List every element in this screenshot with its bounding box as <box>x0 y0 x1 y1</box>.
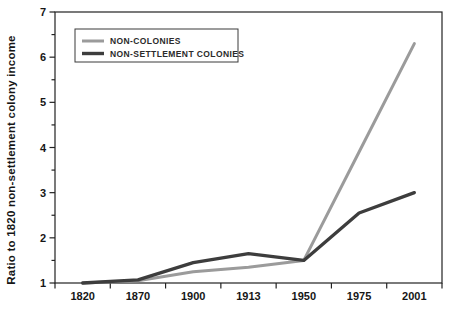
y-axis-title: Ratio to 1820 non-settlement colony inco… <box>5 35 17 284</box>
y-tick-label: 4 <box>40 142 47 154</box>
series-line-non-settlement-colonies <box>83 193 415 283</box>
chart-canvas: 12345671820187019001913195019752001 Rati… <box>0 0 455 319</box>
legend-label-non-colonies: NON-COLONIES <box>110 36 181 46</box>
series-line-non-colonies <box>83 44 415 283</box>
y-tick-label: 3 <box>40 187 46 199</box>
x-tick-label: 1975 <box>347 290 371 302</box>
y-tick-label: 1 <box>40 277 46 289</box>
x-tick-label: 1870 <box>126 290 150 302</box>
legend: NON-COLONIES NON-SETTLEMENT COLONIES <box>75 29 244 62</box>
y-tick-label: 5 <box>40 96 46 108</box>
x-tick-label: 2001 <box>402 290 426 302</box>
y-tick-label: 7 <box>40 6 46 18</box>
x-tick-label: 1900 <box>181 290 205 302</box>
legend-label-non-settlement-colonies: NON-SETTLEMENT COLONIES <box>110 49 244 59</box>
x-tick-label: 1913 <box>236 290 260 302</box>
y-tick-label: 2 <box>40 232 46 244</box>
x-tick-label: 1820 <box>70 290 94 302</box>
y-tick-label: 6 <box>40 51 46 63</box>
x-tick-label: 1950 <box>292 290 316 302</box>
ratio-line-chart: 12345671820187019001913195019752001 Rati… <box>0 0 455 319</box>
